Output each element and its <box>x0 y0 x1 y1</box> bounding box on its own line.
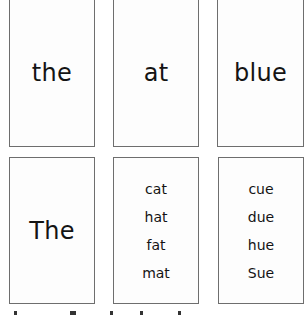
card-word: at <box>144 59 169 87</box>
flashcard-ue-family: cue due hue Sue <box>218 157 304 304</box>
word-list: cue due hue Sue <box>248 180 274 282</box>
word-list-item: cue <box>248 180 273 198</box>
flashcard-at: at <box>113 0 199 147</box>
word-list-item: mat <box>142 264 170 282</box>
word-list-item: hat <box>145 208 168 226</box>
word-list-item: cat <box>145 180 167 198</box>
word-list-item: Sue <box>248 264 274 282</box>
cropped-text-fragment <box>110 311 113 315</box>
flashcard-blue: blue <box>217 0 304 147</box>
word-list-item: fat <box>147 236 166 254</box>
word-list-item: due <box>248 208 274 226</box>
cropped-text-fragment <box>70 311 76 315</box>
word-list-item: hue <box>248 236 274 254</box>
card-word: the <box>32 59 72 87</box>
card-word: blue <box>234 59 287 87</box>
flashcard-the: the <box>9 0 95 147</box>
flashcard-at-family: cat hat fat mat <box>113 157 199 304</box>
cropped-text-fragment <box>140 311 143 315</box>
cropped-text-fragment <box>178 311 181 315</box>
cropped-text-fragment <box>14 311 17 315</box>
word-list: cat hat fat mat <box>142 180 170 282</box>
card-word: The <box>29 217 75 245</box>
flashcard-The: The <box>9 157 95 304</box>
